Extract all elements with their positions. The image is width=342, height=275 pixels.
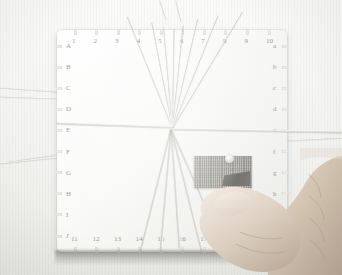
woven-braid-patch (194, 156, 252, 188)
label-right-f: f (273, 149, 275, 156)
notch-top-10 (268, 29, 271, 35)
notch-left-I (56, 213, 62, 216)
notch-left-A (56, 45, 62, 48)
label-bottom-13: 13 (114, 236, 121, 243)
notch-right-b (282, 66, 288, 69)
background-thread-left-3 (0, 96, 60, 99)
notch-left-J (56, 235, 62, 238)
notch-top-9 (246, 29, 249, 35)
background-thread-left-1 (0, 88, 58, 93)
thread-bottom-1 (141, 129, 173, 252)
background-thread-right-1 (287, 137, 342, 141)
label-bottom-17: 17 (200, 236, 207, 243)
notch-top-1 (74, 29, 77, 35)
label-left-G: G (66, 170, 71, 177)
label-left-I: I (66, 212, 68, 219)
notch-right-i (282, 213, 288, 216)
notch-right-f (282, 150, 288, 153)
notch-right-j (282, 235, 288, 238)
notch-left-G (56, 171, 62, 174)
notch-left-H (56, 192, 62, 195)
thread-top-7 (171, 15, 218, 129)
label-left-F: F (66, 149, 70, 156)
label-bottom-14: 14 (136, 236, 143, 243)
label-right-b: b (273, 64, 277, 71)
notch-right-c (282, 87, 288, 90)
label-top-9: 9 (244, 38, 248, 45)
label-right-j: j (273, 233, 275, 240)
label-bottom-11: 11 (71, 236, 78, 243)
label-top-5: 5 (158, 38, 162, 45)
label-top-3: 3 (115, 38, 119, 45)
background-thread-top-2 (175, 0, 182, 22)
notch-left-F (56, 150, 62, 153)
label-top-1: 1 (72, 38, 76, 45)
label-top-2: 2 (94, 38, 98, 45)
label-bottom-20: 20 (265, 236, 272, 243)
label-left-B: B (66, 64, 71, 71)
hand-upper-shade (300, 148, 342, 160)
notch-right-h (282, 192, 288, 195)
notch-top-2 (95, 29, 98, 35)
notch-left-D (56, 108, 62, 111)
notch-top-3 (117, 29, 120, 35)
label-bottom-19: 19 (243, 236, 250, 243)
thread-horizontal-1 (56, 124, 172, 130)
background-thread-top-1 (159, 0, 166, 19)
label-left-H: H (66, 191, 71, 198)
notch-right-g (282, 171, 288, 174)
label-bottom-12: 12 (93, 236, 100, 243)
notch-left-B (56, 66, 62, 69)
label-left-C: C (66, 85, 71, 92)
photograph: 12345678910 11121314151617181920 ABCDEFG… (0, 0, 342, 275)
label-left-J: J (66, 233, 69, 240)
notch-top-4 (138, 29, 141, 35)
label-right-a: a (273, 43, 276, 50)
label-left-E: E (66, 127, 70, 134)
notch-top-7 (203, 29, 206, 35)
label-top-10: 10 (266, 38, 273, 45)
label-right-i: i (273, 212, 275, 219)
notch-right-d (282, 108, 288, 111)
label-right-h: h (273, 191, 277, 198)
board-drop-shadow (55, 250, 291, 264)
label-right-d: d (273, 106, 277, 113)
label-right-c: c (273, 85, 276, 92)
label-left-A: A (66, 43, 71, 50)
notch-right-a (282, 45, 288, 48)
braiding-board[interactable]: 12345678910 11121314151617181920 ABCDEFG… (57, 30, 287, 252)
thread-horizontal-2 (172, 128, 342, 133)
label-left-D: D (66, 106, 71, 113)
notch-left-C (56, 87, 62, 90)
thread-knot (225, 154, 234, 163)
notch-left-E (56, 129, 62, 132)
label-right-g: g (273, 170, 277, 177)
